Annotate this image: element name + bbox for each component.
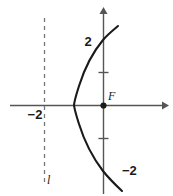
x-axis-label-negative-two: −2 — [28, 107, 43, 122]
parabola-curve — [74, 26, 122, 191]
focus-point-marker — [100, 102, 106, 108]
y-axis-label-positive-two: 2 — [84, 34, 91, 49]
y-axis-label-negative-two: −2 — [122, 163, 137, 178]
coordinate-plane-svg: 2 −2 −2 F l — [0, 0, 173, 196]
x-axis-arrowhead-icon — [162, 102, 169, 110]
y-axis-arrowhead-icon — [100, 7, 108, 14]
directrix-label: l — [47, 173, 51, 187]
parabola-figure: 2 −2 −2 F l — [0, 0, 173, 196]
focus-label: F — [107, 89, 116, 103]
